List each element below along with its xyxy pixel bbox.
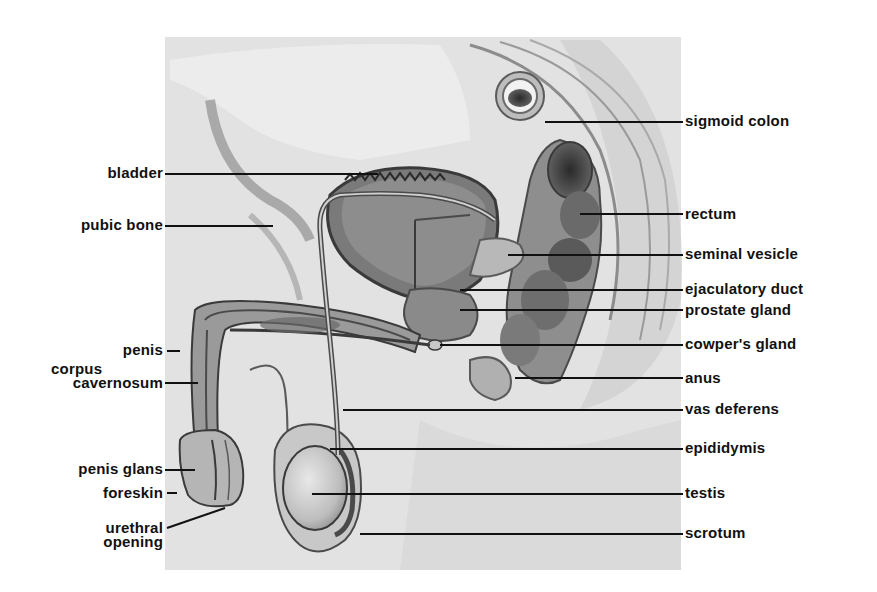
testis-shape — [283, 446, 347, 530]
label-seminal-vesicle: seminal vesicle — [685, 247, 798, 261]
label-ejaculatory-duct: ejaculatory duct — [685, 282, 803, 296]
label-corpus-cavernosum-line2: cavernosum — [73, 376, 163, 390]
label-vas-deferens: vas deferens — [685, 402, 779, 416]
label-rectum: rectum — [685, 207, 736, 221]
label-bladder: bladder — [107, 166, 163, 180]
anatomy-diagram: bladder pubic bone penis corpus cavernos… — [0, 0, 877, 592]
label-urethral-opening-line2: opening — [103, 535, 163, 549]
label-testis: testis — [685, 486, 725, 500]
label-cowpers-gland: cowper's gland — [685, 337, 796, 351]
glans-shape — [180, 430, 244, 506]
label-pubic-bone: pubic bone — [81, 218, 163, 232]
label-sigmoid-colon: sigmoid colon — [685, 114, 789, 128]
label-penis-glans: penis glans — [78, 462, 163, 476]
label-penis: penis — [123, 343, 163, 357]
sigmoid-colon-shape — [496, 72, 544, 120]
label-epididymis: epididymis — [685, 441, 765, 455]
cowpers-gland-shape — [428, 340, 442, 350]
label-anus: anus — [685, 371, 721, 385]
label-foreskin: foreskin — [103, 486, 163, 500]
label-prostate-gland: prostate gland — [685, 303, 791, 317]
label-scrotum: scrotum — [685, 526, 746, 540]
